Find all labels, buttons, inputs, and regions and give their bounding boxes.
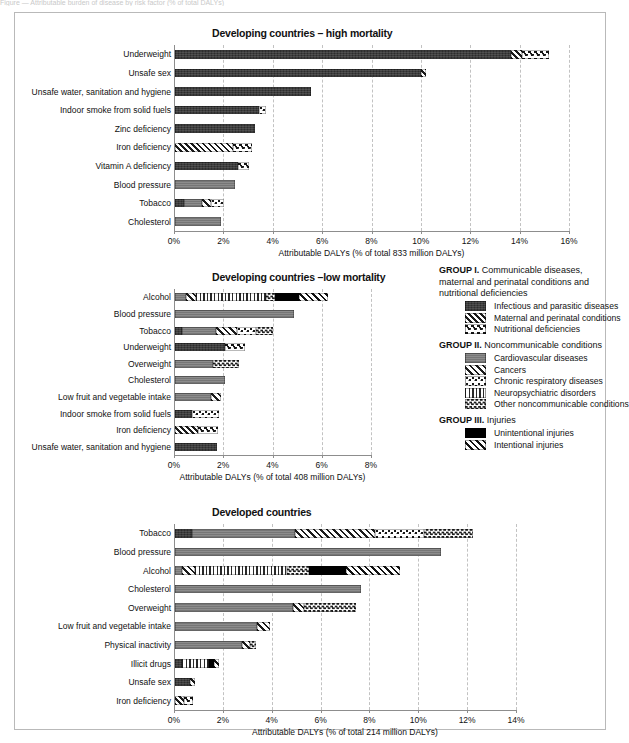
category-label: Cholesterol [16,217,171,227]
legend-item[interactable]: Cancers [465,365,604,375]
category-label: Blood pressure [16,180,171,190]
x-axis-tick-label: 6% [314,715,326,725]
chart-title: Developing countries –low mortality [212,271,385,283]
category-label: Physical inactivity [16,640,171,650]
category-label: Unsafe sex [16,68,171,78]
bar-segment [238,162,249,171]
stacked-bar [175,696,193,705]
bar-segment [175,143,233,152]
legend-group-1: GROUP I. Communicable diseases, maternal… [439,265,604,334]
x-axis-tick [223,231,224,234]
x-axis-tick-label: 8% [365,236,377,246]
legend-item-label: Maternal and perinatal conditions [494,313,621,323]
legend-item[interactable]: Chronic respiratory diseases [465,376,604,386]
category-label: Indoor smoke from solid fuels [16,105,171,115]
legend-item-label: Neuropsychiatric disorders [494,388,596,398]
bar-segment [196,293,266,301]
stacked-bar [175,360,239,368]
figure-frame: Developing countries – high mortality0%2… [14,12,606,730]
legend-item[interactable]: Neuropsychiatric disorders [465,388,604,398]
bar-segment [511,50,522,59]
category-label: Alcohol [16,566,171,576]
legend-group-heading: GROUP III. Injuries [439,415,604,427]
stacked-bar [175,548,441,557]
bar-segment [186,293,196,301]
x-axis-tick [371,455,372,458]
bar-segment [175,162,238,171]
bar-segment [287,566,309,575]
bar-segment [175,641,242,650]
stacked-bar [175,678,195,687]
bar-segment [295,529,376,538]
x-axis-tick [322,455,323,458]
bar-segment [175,393,211,401]
bar-segment [216,327,237,335]
x-axis-tick-label: 0% [168,715,180,725]
x-axis-tick [174,231,175,234]
legend-item-label: Infectious and parasitic diseases [494,301,618,311]
category-label: Tobacco [16,198,171,208]
stacked-bar [175,376,225,384]
bar-segment [175,603,293,612]
stacked-bar [175,162,249,171]
x-axis-tick-label: 0% [168,460,180,470]
legend-item[interactable]: Infectious and parasitic diseases [465,301,604,311]
x-axis-tick-label: 12% [459,715,476,725]
legend: GROUP I. Communicable diseases, maternal… [439,265,604,456]
x-axis-tick [272,710,273,713]
stacked-bar [175,443,217,451]
bar-segment [213,360,239,368]
x-axis-tick-label: 6% [316,460,328,470]
x-axis-tick-label: 14% [507,715,524,725]
bar-segment [192,410,219,418]
legend-item-label: Other noncommunicable conditions [494,399,629,409]
bar-segment [175,410,192,418]
bar-segment [175,124,255,133]
bar-segment [192,529,295,538]
category-label: Alcohol [16,292,171,302]
legend-item-label: Cancers [494,365,526,375]
gridline [569,45,570,231]
bar-segment [175,529,192,538]
bar-segment [195,566,288,575]
legend-item[interactable]: Unintentional injuries [465,428,604,438]
stacked-bar [175,566,400,575]
legend-item[interactable]: Intentional injuries [465,440,604,450]
legend-swatch-icon [465,388,486,398]
stacked-bar [175,124,255,133]
stacked-bar [175,410,219,418]
gridline [470,45,471,231]
legend-item[interactable]: Cardiovascular diseases [465,353,604,363]
legend-item-label: Chronic respiratory diseases [494,376,603,386]
x-axis-tick [569,231,570,234]
bar-segment [175,566,182,575]
bar-segment [375,529,424,538]
bar-segment [175,69,421,78]
bar-segment [175,199,184,208]
bar-segment [175,327,182,335]
x-axis-tick [470,231,471,234]
bar-segment [309,566,346,575]
legend-group-heading: GROUP II. Noncommunicable conditions [439,340,604,352]
x-axis-tick [372,231,373,234]
legend-item[interactable]: Nutritional deficiencies [465,324,604,334]
legend-group-title: Injuries [484,415,516,425]
x-axis-tick [223,455,224,458]
legend-swatch-icon [465,301,486,311]
category-label: Cholesterol [16,375,171,385]
x-axis-tick [322,231,323,234]
x-axis-tick [223,710,224,713]
bar-segment [175,360,213,368]
legend-item[interactable]: Other noncommunicable conditions [465,399,604,409]
bar-segment [175,106,259,115]
bar-segment [175,426,198,434]
bar-segment [214,659,219,668]
bar-segment [225,343,245,351]
legend-swatch-icon [465,324,486,334]
x-axis-tick-label: 4% [266,715,278,725]
x-axis-tick-label: 0% [168,236,180,246]
bar-segment [182,327,215,335]
stacked-bar [175,327,274,335]
gridline [322,289,323,455]
legend-item[interactable]: Maternal and perinatal conditions [465,313,604,323]
